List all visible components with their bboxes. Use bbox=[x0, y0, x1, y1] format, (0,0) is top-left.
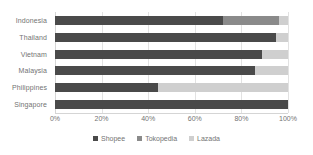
bar-segment-lazada[interactable] bbox=[255, 66, 288, 75]
bar-segment-shopee[interactable] bbox=[55, 50, 262, 59]
legend-label: Tokopedia bbox=[145, 135, 177, 142]
bar-segment-shopee[interactable] bbox=[55, 66, 255, 75]
bar-segment-lazada[interactable] bbox=[276, 33, 288, 42]
stacked-bar[interactable] bbox=[55, 100, 288, 109]
legend-item-lazada[interactable]: Lazada bbox=[189, 135, 220, 142]
stacked-bar-chart: IndonesiaThailandVietnamMalaysiaPhilippi… bbox=[0, 0, 313, 155]
category-label: Singapore bbox=[0, 96, 51, 113]
gridline bbox=[288, 12, 289, 113]
bar-row bbox=[55, 12, 288, 29]
stacked-bar[interactable] bbox=[55, 16, 288, 25]
bar-segment-lazada[interactable] bbox=[158, 83, 288, 92]
bar-segment-shopee[interactable] bbox=[55, 83, 158, 92]
legend-swatch-icon bbox=[137, 136, 142, 141]
bar-segment-shopee[interactable] bbox=[55, 100, 288, 109]
bar-segment-shopee[interactable] bbox=[55, 16, 223, 25]
category-label: Thailand bbox=[0, 29, 51, 46]
legend-item-tokopedia[interactable]: Tokopedia bbox=[137, 135, 177, 142]
stacked-bar[interactable] bbox=[55, 83, 288, 92]
category-label: Vietnam bbox=[0, 46, 51, 63]
x-tick-label: 40% bbox=[141, 115, 155, 122]
stacked-bar[interactable] bbox=[55, 66, 288, 75]
category-axis-labels: IndonesiaThailandVietnamMalaysiaPhilippi… bbox=[0, 12, 51, 113]
bar-segment-lazada[interactable] bbox=[262, 50, 288, 59]
stacked-bar[interactable] bbox=[55, 50, 288, 59]
x-tick-label: 60% bbox=[188, 115, 202, 122]
bar-row bbox=[55, 96, 288, 113]
category-label: Malaysia bbox=[0, 62, 51, 79]
category-label: Indonesia bbox=[0, 12, 51, 29]
x-tick-label: 20% bbox=[95, 115, 109, 122]
bar-segment-lazada[interactable] bbox=[279, 16, 288, 25]
stacked-bar[interactable] bbox=[55, 33, 288, 42]
x-axis-line bbox=[55, 113, 288, 114]
x-tick-label: 80% bbox=[234, 115, 248, 122]
legend-item-shopee[interactable]: Shopee bbox=[93, 135, 125, 142]
bar-row bbox=[55, 62, 288, 79]
bar-series-container bbox=[55, 12, 288, 113]
legend-swatch-icon bbox=[93, 136, 98, 141]
legend-label: Shopee bbox=[101, 135, 125, 142]
legend-label: Lazada bbox=[197, 135, 220, 142]
chart-legend: ShopeeTokopediaLazada bbox=[0, 135, 313, 142]
bar-segment-tokopedia[interactable] bbox=[223, 16, 279, 25]
category-label: Philippines bbox=[0, 79, 51, 96]
plot-area bbox=[55, 12, 288, 113]
x-tick-label: 100% bbox=[279, 115, 297, 122]
bar-row bbox=[55, 29, 288, 46]
bar-segment-shopee[interactable] bbox=[55, 33, 276, 42]
legend-swatch-icon bbox=[189, 136, 194, 141]
bar-row bbox=[55, 79, 288, 96]
x-axis-tick-labels: 0%20%40%60%80%100% bbox=[55, 115, 288, 126]
bar-row bbox=[55, 46, 288, 63]
x-tick-label: 0% bbox=[50, 115, 60, 122]
